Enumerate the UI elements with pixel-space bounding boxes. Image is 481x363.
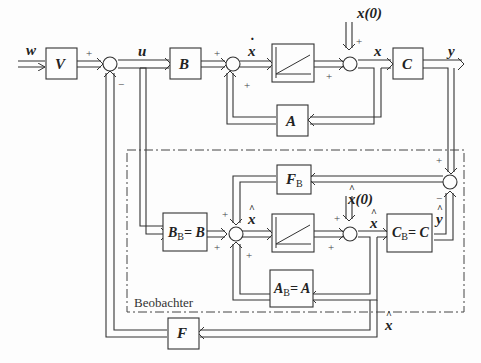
block-F-label: F (177, 326, 187, 341)
diagram-lines (0, 0, 481, 363)
block-FB-label: FB (286, 172, 303, 189)
block-diagram: V B C A FB BB= B CB= C AB= A F w u x x x… (0, 0, 481, 363)
signal-x-label: x (374, 44, 382, 59)
sign-plus: + (436, 155, 442, 166)
signal-xhat-bottom-label: x (385, 318, 393, 333)
signal-yhat-label: y (436, 212, 443, 227)
sign-plus: + (86, 48, 92, 59)
sign-plus: + (246, 250, 252, 261)
signal-xhat-label: x (370, 216, 378, 231)
block-A-label: A (286, 114, 296, 129)
signal-w-label: w (26, 43, 36, 58)
block-B-label: B (179, 57, 189, 72)
sign-plus: + (222, 209, 228, 220)
observer-label: Beobachter (134, 296, 193, 309)
sign-plus: + (214, 242, 220, 253)
block-C-label: C (402, 57, 412, 72)
block-BB-label: BB= B (168, 226, 205, 242)
sign-plus: + (356, 36, 362, 47)
signal-xdot-label: x (248, 44, 256, 59)
signal-u-label: u (138, 44, 146, 59)
block-V-label: V (55, 57, 65, 72)
signal-xhat-dot-label: x (248, 212, 256, 227)
sign-plus: + (328, 242, 334, 253)
signal-xhat0-label: x(0) (348, 192, 373, 207)
signal-x0-label: x(0) (357, 6, 382, 21)
sign-plus: + (214, 48, 220, 59)
block-CB-label: CB= C (392, 226, 429, 242)
sign-plus: + (326, 71, 332, 82)
sign-minus: − (436, 193, 442, 204)
sign-plus: + (334, 213, 340, 224)
block-AB-label: AB= A (274, 282, 310, 298)
sign-minus: − (118, 79, 124, 90)
signal-y-label: y (448, 44, 455, 59)
sign-plus: + (244, 80, 250, 91)
